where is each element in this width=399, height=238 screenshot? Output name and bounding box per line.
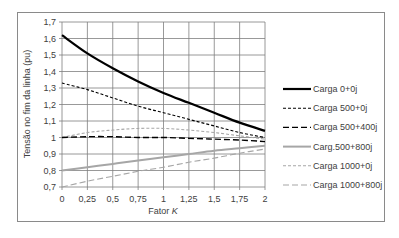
y-tick-label: 1,7	[43, 17, 56, 27]
legend-label: Carga 1000+0j	[313, 161, 372, 171]
y-axis-ticks: 0,70,80,911,11,21,31,41,51,61,7	[43, 17, 56, 192]
gridlines	[59, 22, 265, 190]
y-tick-label: 0,7	[43, 182, 56, 192]
y-tick-label: 1	[51, 133, 56, 143]
x-tick-label: 0,75	[129, 194, 147, 204]
x-tick-label: 2	[262, 194, 267, 204]
legend-label: Carga 0+0j	[313, 84, 357, 94]
legend-label: Carga 500+0j	[313, 103, 367, 113]
x-tick-label: 0,25	[79, 194, 97, 204]
y-tick-label: 0,9	[43, 149, 56, 159]
line-chart: 0,70,80,911,11,21,31,41,51,61,7 00,250,5…	[0, 0, 399, 238]
y-tick-label: 1,4	[43, 67, 56, 77]
y-axis-title: Tensão no fim da linha (pu)	[22, 50, 32, 159]
x-tick-label: 0	[59, 194, 64, 204]
legend-label: Carga 1000+800j	[313, 180, 382, 190]
y-tick-label: 1,1	[43, 116, 56, 126]
x-tick-label: 1	[161, 194, 166, 204]
y-tick-label: 0,8	[43, 166, 56, 176]
x-axis-ticks: 00,250,50,7511,251,51,752	[59, 194, 267, 204]
y-tick-label: 1,6	[43, 34, 56, 44]
x-axis-title: Fator K	[148, 206, 179, 216]
legend-label: Carga 500+400j	[313, 122, 377, 132]
y-tick-label: 1,5	[43, 50, 56, 60]
legend-label: Carg.500+800j	[313, 142, 372, 152]
x-tick-label: 1,25	[180, 194, 198, 204]
legend: Carga 0+0jCarga 500+0jCarga 500+400jCarg…	[283, 84, 382, 190]
y-tick-label: 1,2	[43, 100, 56, 110]
y-tick-label: 1,3	[43, 83, 56, 93]
x-tick-label: 1,5	[208, 194, 221, 204]
x-tick-label: 0,5	[106, 194, 119, 204]
x-tick-label: 1,75	[231, 194, 249, 204]
